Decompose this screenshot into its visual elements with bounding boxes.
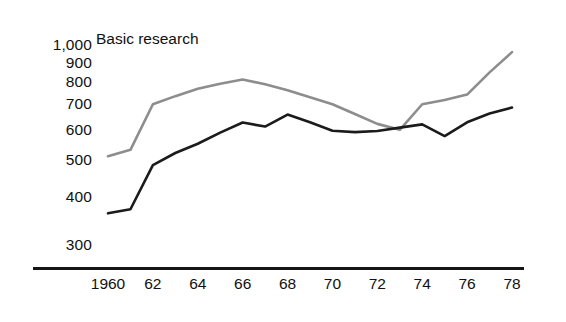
x-axis-tick-label: 74 [414,276,431,292]
series-line-upper-gray-series [108,52,512,156]
x-axis-tick-label: 62 [144,276,161,292]
x-axis-tick-label: 66 [234,276,251,292]
x-axis-labels: 1960626466687072747678 [0,276,566,300]
plot-area [0,0,566,322]
x-axis-rule [33,267,524,270]
x-axis-tick-label: 70 [324,276,341,292]
chart-figure: 1,000900800700600500400300 Basic researc… [0,0,566,322]
x-axis-tick-label: 78 [503,276,520,292]
x-axis-tick-label: 72 [369,276,386,292]
series-canvas [0,0,566,322]
series-line-lower-black-series [108,108,512,214]
x-axis-tick-label: 1960 [91,276,125,292]
x-axis-tick-label: 76 [458,276,475,292]
x-axis-tick-label: 68 [279,276,296,292]
x-axis-tick-label: 64 [189,276,206,292]
